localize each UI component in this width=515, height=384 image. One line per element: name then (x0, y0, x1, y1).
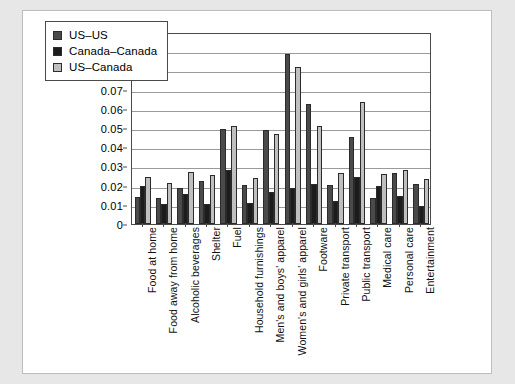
legend-label: US–Canada (69, 61, 133, 73)
bar-group (263, 34, 279, 224)
bar (145, 177, 150, 224)
x-tick-label: Household furnishings (253, 227, 265, 333)
y-tick-label: 0.01 (101, 200, 123, 212)
y-tick-label: 0.04 (101, 142, 123, 154)
y-tick-mark (123, 129, 127, 130)
y-tick-mark (123, 109, 127, 110)
bar (253, 178, 258, 224)
x-tick-mark (142, 223, 143, 227)
bar (381, 174, 386, 224)
bars-layer (132, 34, 430, 224)
bar (188, 172, 193, 224)
y-tick-label: 0.06 (101, 104, 123, 116)
bar-group (392, 34, 408, 224)
x-tick-mark (163, 223, 164, 227)
bar-group (327, 34, 343, 224)
bar-group (242, 34, 258, 224)
x-tick-label: Women's and girls' apparel (296, 227, 308, 355)
x-tick-label: Public transport (360, 227, 372, 302)
x-tick-label: Food at home (146, 227, 158, 293)
bar (295, 67, 300, 224)
y-tick-label: 0.03 (101, 161, 123, 173)
y-tick-mark (123, 90, 127, 91)
x-tick-mark (270, 223, 271, 227)
legend-swatch-icon (53, 63, 62, 72)
bar (317, 126, 322, 224)
y-tick-mark (123, 148, 127, 149)
bar (231, 126, 236, 224)
legend-label: US–US (69, 29, 108, 41)
x-tick-label: Fuel (231, 227, 243, 248)
x-tick-mark (399, 223, 400, 227)
legend-swatch-icon (53, 31, 62, 40)
bar (424, 179, 429, 225)
x-tick-mark (356, 223, 357, 227)
y-tick-label: 0.07 (101, 85, 123, 97)
y-tick-mark (123, 225, 127, 226)
bar-group (306, 34, 322, 224)
x-tick-label: Medical care (381, 227, 393, 288)
y-tick-label: 0.02 (101, 181, 123, 193)
y-tick-mark (123, 186, 127, 187)
legend-item: Canada–Canada (53, 43, 157, 59)
chart-figure: 00.010.020.030.040.050.060.070.080.090.1… (22, 10, 492, 374)
x-tick-label: Footware (317, 227, 329, 272)
bar-group (199, 34, 215, 224)
bar (403, 170, 408, 224)
x-tick-mark (335, 223, 336, 227)
y-tick-label: 0.05 (101, 123, 123, 135)
x-tick-label: Entertainment (424, 227, 436, 294)
bar-group (220, 34, 236, 224)
x-tick-mark (227, 223, 228, 227)
y-tick-mark (123, 205, 127, 206)
x-tick-label: Private transport (339, 227, 351, 306)
bar-group (413, 34, 429, 224)
plot-area (131, 33, 431, 225)
bar (360, 102, 365, 224)
bar-group (349, 34, 365, 224)
x-tick-mark (292, 223, 293, 227)
x-tick-mark (313, 223, 314, 227)
x-tick-mark (377, 223, 378, 227)
x-tick-mark (206, 223, 207, 227)
legend-swatch-icon (53, 47, 62, 56)
x-tick-label: Men's and boys' apparel (274, 227, 286, 342)
x-tick-mark (249, 223, 250, 227)
bar (338, 173, 343, 224)
x-tick-label: Shelter (210, 227, 222, 261)
legend-label: Canada–Canada (69, 45, 157, 57)
legend-item: US–Canada (53, 59, 157, 75)
x-axis-labels: Food at homeFood away from homeAlcoholic… (131, 227, 431, 357)
x-tick-mark (420, 223, 421, 227)
bar-group (370, 34, 386, 224)
legend-item: US–US (53, 27, 157, 43)
x-tick-label: Food away from home (167, 227, 179, 333)
chart-legend: US–USCanada–CanadaUS–Canada (45, 21, 168, 81)
bar (274, 134, 279, 224)
x-tick-mark (185, 223, 186, 227)
bar-group (177, 34, 193, 224)
y-tick-mark (123, 167, 127, 168)
bar (210, 175, 215, 224)
bar-group (285, 34, 301, 224)
x-tick-label: Alcoholic beverages (189, 227, 201, 323)
bar (167, 183, 172, 224)
x-tick-label: Personal care (403, 227, 415, 293)
